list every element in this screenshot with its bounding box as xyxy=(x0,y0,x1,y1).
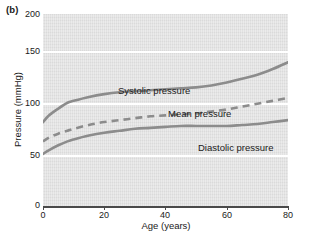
plot-area: Systolic pressure Mean pressure Diastoli… xyxy=(43,14,288,207)
series-curves xyxy=(43,14,288,207)
curve-mean-pressure xyxy=(43,98,288,141)
y-axis-label: Pressure (mmHg) xyxy=(12,50,23,170)
x-tick-20: 20 xyxy=(89,210,119,220)
x-axis-label: Age (years) xyxy=(43,220,289,231)
figure-panel-b: (b) Systolic pressure Mean pressure Dias… xyxy=(0,0,321,233)
x-tick-80: 80 xyxy=(273,210,303,220)
y-tick-200: 200 xyxy=(2,9,40,19)
x-tick-0: 0 xyxy=(28,210,58,220)
series-label-mean: Mean pressure xyxy=(168,108,231,119)
x-tick-60: 60 xyxy=(212,210,242,220)
series-label-diastolic: Diastolic pressure xyxy=(198,142,274,153)
y-tick-0: 0 xyxy=(2,200,40,210)
x-axis-line xyxy=(43,206,289,208)
series-label-systolic: Systolic pressure xyxy=(118,85,190,96)
x-tick-40: 40 xyxy=(150,210,180,220)
